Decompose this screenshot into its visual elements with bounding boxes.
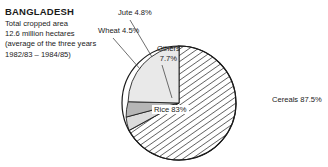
slice-label-others-value: 7.7%: [157, 54, 180, 64]
leader-line-wheat: [113, 38, 140, 69]
slice-label-wheat: Wheat 4.5%: [98, 26, 139, 35]
slice-label-jute: Jute 4.8%: [118, 8, 152, 17]
slice-label-others-name: Others: [157, 44, 180, 54]
slice-label-others: Others 7.7%: [157, 44, 180, 63]
slice-label-rice: Rice 83%: [152, 105, 189, 114]
group-label-cereals: Cereals 87.5%: [272, 95, 322, 104]
pie-chart: [0, 0, 328, 167]
pie-chart-svg: [0, 0, 328, 167]
